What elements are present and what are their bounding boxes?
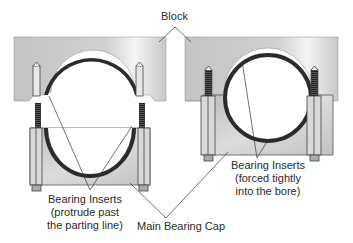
- left-inserts-label: Bearing Inserts (protrude past the parti…: [47, 193, 123, 232]
- left-block: [14, 37, 166, 101]
- main-bearing-cap-label: Main Bearing Cap: [137, 220, 225, 233]
- left-inserts-line2: (protrude past: [47, 206, 123, 219]
- left-inserts-line1: Bearing Inserts: [47, 193, 123, 206]
- left-inserts-line3: the parting line): [47, 219, 123, 232]
- right-inserts-line1: Bearing Inserts: [231, 159, 305, 172]
- block-label: Block: [161, 10, 188, 23]
- left-main-bearing-cap: [30, 103, 150, 191]
- right-inserts-line2: (forced tightly: [231, 172, 305, 185]
- right-inserts-label: Bearing Inserts (forced tightly into the…: [231, 159, 305, 198]
- right-inserts-line3: into the bore): [231, 185, 305, 198]
